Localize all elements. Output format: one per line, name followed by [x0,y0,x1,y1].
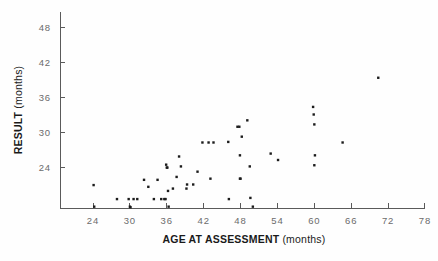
data-point [312,106,314,108]
data-point [172,187,174,189]
data-point [196,170,198,172]
data-point [249,197,251,199]
data-point [192,183,194,185]
x-tick-label: 66 [345,215,357,226]
data-points-group [92,77,379,209]
data-point [314,154,316,156]
x-tick-label: 42 [197,215,209,226]
x-tick-label: 54 [271,215,283,226]
data-point [239,177,241,179]
data-point [239,154,241,156]
x-axis-title: AGE AT ASSESSMENT (months) [163,233,326,245]
tick-marks-group [60,27,425,208]
data-point [212,141,214,143]
data-point [186,183,188,185]
y-axis-title: RESULT (months) [12,66,24,155]
data-point [241,135,243,137]
data-point [178,155,180,157]
data-point [313,123,315,125]
data-point [132,198,134,200]
x-tick-label: 30 [124,215,136,226]
y-tick-label: 30 [39,127,51,138]
y-tick-label: 36 [39,92,51,103]
data-point [228,198,230,200]
data-point [129,206,131,208]
data-point [180,165,182,167]
data-point [227,141,229,143]
data-point [166,166,168,168]
data-point [341,141,343,143]
data-point [164,198,166,200]
data-point [201,141,203,143]
x-tick-label: 48 [234,215,246,226]
data-point [277,159,279,161]
data-point [167,190,169,192]
axes-group [60,12,425,208]
data-point [252,205,254,207]
x-tick-label: 24 [87,215,99,226]
data-point [160,198,162,200]
data-point [143,179,145,181]
data-point [209,177,211,179]
y-tick-label: 42 [39,57,51,68]
data-point [238,126,240,128]
x-tick-label: 60 [308,215,320,226]
data-point [313,113,315,115]
x-tick-label: 72 [382,215,394,226]
data-point [93,205,95,207]
data-point [377,77,379,79]
data-point [175,176,177,178]
x-axis-tick-labels: 24303642485460667278 [87,215,431,226]
data-point [269,152,271,154]
scatter-plot-svg: 24303642485460667278 2430364248 AGE AT A… [0,0,438,261]
data-point [167,205,169,207]
y-tick-label: 24 [39,162,51,173]
data-point [246,119,248,121]
data-point [249,165,251,167]
data-point [313,164,315,166]
y-tick-label: 48 [39,22,51,33]
x-tick-label: 36 [161,215,173,226]
data-point [127,198,129,200]
data-point [185,187,187,189]
data-point [153,198,155,200]
scatter-chart-root: 24303642485460667278 2430364248 AGE AT A… [0,0,438,261]
data-point [165,163,167,165]
data-point [116,198,118,200]
y-axis-tick-labels: 2430364248 [39,22,51,173]
x-tick-label: 78 [419,215,431,226]
data-point [147,186,149,188]
data-point [136,198,138,200]
data-point [156,179,158,181]
data-point [207,141,209,143]
data-point [92,184,94,186]
